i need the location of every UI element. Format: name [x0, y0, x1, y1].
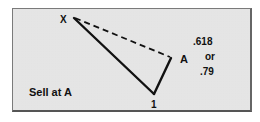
leg-1-to-a	[154, 58, 171, 94]
point-1-label: 1	[151, 99, 157, 110]
ratio-line-2: or	[205, 51, 215, 62]
leg-x-to-1	[74, 18, 154, 94]
pattern-diagram: X A 1 .618 or .79 Sell at A	[0, 0, 260, 122]
ratio-line-3: .79	[200, 66, 214, 77]
caption: Sell at A	[29, 86, 72, 98]
ratio-line-1: .618	[193, 36, 213, 47]
point-a-label: A	[180, 53, 188, 65]
point-x-label: X	[60, 14, 67, 25]
dashed-leg-x-to-a	[75, 18, 170, 57]
